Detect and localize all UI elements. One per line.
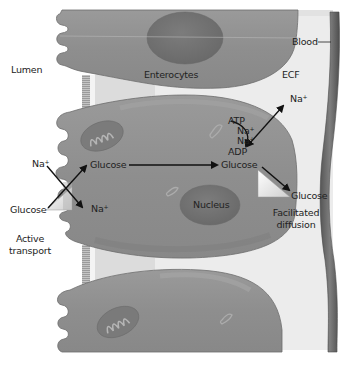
- blood-label: Blood: [292, 37, 318, 47]
- glucose-lumen-label: Glucose: [10, 205, 46, 215]
- ecf-label: ECF: [282, 70, 300, 80]
- lumen-label: Lumen: [11, 65, 42, 75]
- adp-label: ADP: [228, 147, 247, 157]
- facilitated-diffusion-label: Facilitated diffusion: [266, 208, 326, 229]
- active-transport-label: Active transport: [2, 234, 58, 255]
- sodium-lumen-label: Na+: [32, 159, 49, 169]
- sodium-pump-label-2: Na+: [237, 136, 254, 146]
- sodium-ecf-label: Na+: [290, 94, 307, 104]
- glucose-ecf-label: Glucose: [291, 191, 327, 201]
- enterocytes-label: Enterocytes: [144, 70, 198, 80]
- sodium-cell-label: Na+: [91, 204, 108, 214]
- top-nucleus-icon: [147, 12, 223, 64]
- glucose-basolateral-label: Glucose: [221, 160, 257, 170]
- enterocyte-glucose-transport-diagram: [0, 0, 355, 365]
- glucose-apical-label: Glucose: [90, 160, 126, 170]
- nucleus-label: Nucleus: [193, 200, 229, 210]
- bottom-enterocyte: [57, 269, 282, 352]
